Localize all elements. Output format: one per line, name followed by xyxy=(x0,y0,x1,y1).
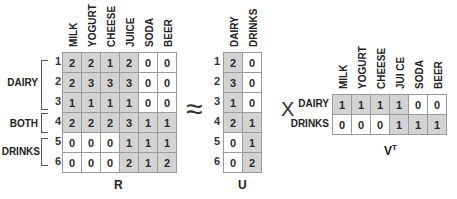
r-row-index: 3 xyxy=(51,95,61,107)
matrix-cell: 3 xyxy=(101,73,120,93)
matrix-cell: 0 xyxy=(139,53,158,73)
matrix-cell: 2 xyxy=(120,53,139,73)
matrix-row: 221200 xyxy=(63,53,177,73)
r-col-header: YOGURT xyxy=(87,4,98,47)
matrix-cell: 1 xyxy=(371,95,390,115)
group-label-dairy: DAIRY xyxy=(0,77,38,88)
matrix-cell: 1 xyxy=(158,113,177,133)
matrix-cell: 2 xyxy=(243,153,262,173)
matrix-row: 02 xyxy=(224,153,262,173)
matrix-cell: 0 xyxy=(224,153,243,173)
r-grid: 221200233300111100222311000111000212 xyxy=(62,52,177,173)
matrix-cell: 2 xyxy=(224,53,243,73)
approx-symbol: ≈ xyxy=(186,92,202,126)
matrix-cell: 1 xyxy=(352,95,371,115)
matrix-cell: 1 xyxy=(63,93,82,113)
matrix-cell: 0 xyxy=(224,133,243,153)
matrix-row: 30 xyxy=(224,73,262,93)
matrix-row: 111100 xyxy=(63,93,177,113)
matrix-cell: 0 xyxy=(352,115,371,135)
matrix-cell: 0 xyxy=(409,95,428,115)
matrix-row: 000111 xyxy=(333,115,447,135)
vt-col-header: JUI CE xyxy=(395,57,406,89)
matrix-cell: 3 xyxy=(82,73,101,93)
u-row-index: 4 xyxy=(210,115,220,127)
u-row-index: 2 xyxy=(210,75,220,87)
u-col-header: DRINKS xyxy=(248,9,259,47)
matrix-cell: 2 xyxy=(63,113,82,133)
matrix-cell: 2 xyxy=(63,53,82,73)
u-row-index: 5 xyxy=(210,135,220,147)
matrix-cell: 0 xyxy=(101,133,120,153)
matrix-cell: 1 xyxy=(120,93,139,113)
matrix-cell: 1 xyxy=(158,133,177,153)
matrix-cell: 2 xyxy=(158,153,177,173)
r-col-header: BEER xyxy=(163,19,174,47)
r-col-header: JUICE xyxy=(125,18,136,47)
matrix-cell: 1 xyxy=(243,113,262,133)
vt-col-header: SODA xyxy=(414,60,425,89)
vt-row-label-drinks: DRINKS xyxy=(281,118,329,129)
u-row-index: 1 xyxy=(210,55,220,67)
matrix-cell: 0 xyxy=(63,133,82,153)
matrix-cell: 1 xyxy=(243,133,262,153)
u-grid: 203010210102 xyxy=(223,52,262,173)
matrix-cell: 2 xyxy=(82,113,101,133)
r-col-header: MILK xyxy=(68,23,79,47)
matrix-cell: 0 xyxy=(243,73,262,93)
matrix-cell: 0 xyxy=(243,93,262,113)
matrix-cell: 1 xyxy=(101,93,120,113)
matrix-cell: 3 xyxy=(120,113,139,133)
r-row-index: 2 xyxy=(51,75,61,87)
matrix-cell: 0 xyxy=(101,153,120,173)
matrix-cell: 0 xyxy=(139,93,158,113)
r-col-header: SODA xyxy=(144,18,155,47)
matrix-cell: 0 xyxy=(333,115,352,135)
matrix-cell: 0 xyxy=(158,93,177,113)
matrix-cell: 1 xyxy=(139,133,158,153)
matrix-cell: 1 xyxy=(390,95,409,115)
matrix-cell: 0 xyxy=(63,153,82,173)
matrix-row: 233300 xyxy=(63,73,177,93)
both-bracket xyxy=(41,113,48,133)
vt-label-sup: T xyxy=(392,143,397,152)
u-row-index: 6 xyxy=(210,155,220,167)
matrix-cell: 0 xyxy=(139,73,158,93)
matrix-row: 01 xyxy=(224,133,262,153)
u-label: U xyxy=(238,178,247,192)
matrix-cell: 2 xyxy=(63,73,82,93)
matrix-cell: 2 xyxy=(224,113,243,133)
matrix-cell: 2 xyxy=(101,113,120,133)
matrix-cell: 0 xyxy=(243,53,262,73)
matrix-row: 000111 xyxy=(63,133,177,153)
matrix-cell: 0 xyxy=(82,153,101,173)
vt-col-header: CHEESE xyxy=(376,48,387,89)
matrix-cell: 1 xyxy=(82,93,101,113)
matrix-cell: 0 xyxy=(371,115,390,135)
matrix-row: 111100 xyxy=(333,95,447,115)
matrix-cell: 1 xyxy=(101,53,120,73)
matrix-cell: 1 xyxy=(224,93,243,113)
r-row-index: 5 xyxy=(51,135,61,147)
group-label-drinks: DRINKS xyxy=(0,146,40,157)
group-label-both: BOTH xyxy=(0,118,38,129)
r-row-index: 6 xyxy=(51,155,61,167)
r-row-index: 1 xyxy=(51,55,61,67)
vt-label-base: V xyxy=(384,144,392,158)
matrix-cell: 1 xyxy=(390,115,409,135)
vt-col-header: YOGURT xyxy=(357,46,368,89)
matrix-cell: 1 xyxy=(120,133,139,153)
r-label: R xyxy=(114,178,123,192)
matrix-cell: 0 xyxy=(428,95,447,115)
matrix-row: 10 xyxy=(224,93,262,113)
matrix-row: 222311 xyxy=(63,113,177,133)
vt-col-header: MILK xyxy=(338,65,349,89)
matrix-cell: 2 xyxy=(82,53,101,73)
matrix-row: 000212 xyxy=(63,153,177,173)
matrix-row: 20 xyxy=(224,53,262,73)
matrix-cell: 2 xyxy=(120,153,139,173)
matrix-cell: 3 xyxy=(120,73,139,93)
vt-label: VT xyxy=(384,143,397,158)
u-col-header: DAIRY xyxy=(229,16,240,47)
matrix-row: 21 xyxy=(224,113,262,133)
